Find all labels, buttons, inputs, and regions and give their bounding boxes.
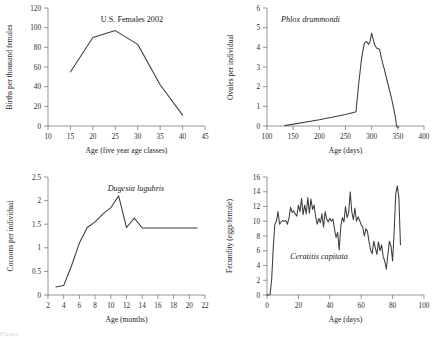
data-series-line (285, 33, 399, 127)
x-tick-label: 250 (340, 133, 351, 141)
data-series-line (56, 196, 197, 287)
y-tick-label: 0 (37, 123, 41, 131)
series-title: Ceratitis capitata (290, 252, 348, 261)
x-tick-label: 100 (419, 302, 430, 310)
x-tick-label: 30 (134, 133, 142, 141)
x-tick-label: 20 (186, 302, 194, 310)
y-tick-label: 4 (256, 44, 260, 52)
x-tick-label: 18 (170, 302, 178, 310)
x-tick-label: 0 (265, 302, 269, 310)
plot-frame-phlox (267, 8, 424, 126)
y-tick-label: 40 (34, 83, 42, 91)
y-tick-label: 4 (256, 262, 260, 270)
y-axis-title: Births per thousand females (5, 24, 14, 109)
x-ticks-phlox: 100 150 200 250 300 350 400 (262, 126, 430, 141)
x-ticks-dugesia: 2 4 6 8 10 12 14 16 18 20 22 (46, 295, 209, 310)
y-tick-label: 120 (30, 5, 41, 13)
y-tick-label: 60 (34, 64, 42, 72)
y-ticks-dugesia: 2.5 2 1.5 1 0.5 0 (32, 174, 48, 300)
y-ticks-us-females: 120 100 80 60 40 20 0 (30, 5, 48, 131)
y-tick-label: 0 (256, 292, 260, 300)
x-tick-label: 100 (262, 133, 273, 141)
y-tick-label: 12 (253, 203, 261, 211)
x-tick-label: 350 (392, 133, 403, 141)
figure-caption: Figure (0, 330, 438, 338)
x-ticks-ceratitis: 0 20 40 60 80 100 (265, 295, 430, 310)
x-tick-label: 35 (157, 133, 165, 141)
x-tick-label: 4 (62, 302, 66, 310)
y-tick-label: 0 (37, 292, 41, 300)
x-axis-title: Age (five year age classes) (86, 146, 168, 155)
plot-frame-us-females (48, 8, 205, 126)
x-tick-label: 12 (123, 302, 131, 310)
chart-ceratitis: 16 14 12 10 8 6 4 2 0 0 20 40 60 (219, 169, 438, 338)
y-ticks-ceratitis: 16 14 12 10 8 6 4 2 0 (253, 174, 267, 300)
x-tick-label: 400 (419, 133, 430, 141)
x-axis-title: Age (days) (329, 146, 363, 155)
x-tick-label: 80 (389, 302, 397, 310)
y-tick-label: 1 (256, 103, 260, 111)
x-tick-label: 10 (107, 302, 115, 310)
y-ticks-phlox: 6 5 4 3 2 1 0 (256, 5, 267, 131)
x-tick-label: 6 (78, 302, 82, 310)
y-tick-label: 0.5 (32, 268, 41, 276)
x-tick-label: 300 (366, 133, 377, 141)
y-tick-label: 80 (34, 44, 42, 52)
y-tick-label: 16 (253, 174, 261, 182)
chart-phlox: 6 5 4 3 2 1 0 100 150 200 250 300 (219, 0, 438, 169)
y-tick-label: 10 (253, 218, 261, 226)
panel-ceratitis: 16 14 12 10 8 6 4 2 0 0 20 40 60 (219, 169, 438, 338)
y-tick-label: 14 (253, 188, 261, 196)
x-axis-title: Age (months) (106, 315, 148, 324)
x-tick-label: 22 (201, 302, 209, 310)
series-title: Dugesia lugubris (107, 184, 165, 193)
y-axis-title: Cocoons per individual (6, 201, 15, 272)
y-axis-title: Fecundity (eggs/female) (225, 199, 234, 273)
y-tick-label: 5 (256, 24, 260, 32)
x-tick-label: 60 (358, 302, 366, 310)
y-tick-label: 1 (37, 244, 41, 252)
x-tick-label: 40 (326, 302, 334, 310)
chart-dugesia: 2.5 2 1.5 1 0.5 0 2 4 6 (0, 169, 219, 338)
chart-us-females: 120 100 80 60 40 20 0 10 15 20 25 (0, 0, 219, 169)
x-tick-label: 40 (179, 133, 187, 141)
plot-frame-dugesia (48, 177, 205, 295)
x-tick-label: 2 (46, 302, 50, 310)
x-ticks-us-females: 10 15 20 25 30 35 40 45 (44, 126, 209, 141)
panel-phlox: 6 5 4 3 2 1 0 100 150 200 250 300 (219, 0, 438, 169)
x-tick-label: 20 (295, 302, 303, 310)
x-tick-label: 14 (139, 302, 147, 310)
panel-dugesia: 2.5 2 1.5 1 0.5 0 2 4 6 (0, 169, 219, 338)
y-tick-label: 3 (256, 64, 260, 72)
y-tick-label: 2 (37, 197, 41, 205)
series-title: U.S. Females 2002 (101, 15, 163, 24)
y-tick-label: 2.5 (32, 174, 41, 182)
y-tick-label: 100 (30, 24, 41, 32)
panel-us-females: 120 100 80 60 40 20 0 10 15 20 25 (0, 0, 219, 169)
y-tick-label: 1.5 (32, 221, 41, 229)
y-tick-label: 0 (256, 123, 260, 131)
figure-container: 120 100 80 60 40 20 0 10 15 20 25 (0, 0, 438, 338)
x-tick-label: 16 (154, 302, 162, 310)
y-tick-label: 2 (256, 83, 260, 91)
x-tick-label: 15 (67, 133, 75, 141)
x-tick-label: 20 (89, 133, 97, 141)
x-tick-label: 10 (44, 133, 52, 141)
data-series-line (267, 186, 400, 295)
series-title: Phlox drummondi (280, 15, 341, 24)
x-tick-label: 25 (112, 133, 120, 141)
y-tick-label: 8 (256, 233, 260, 241)
x-tick-label: 45 (201, 133, 209, 141)
y-tick-label: 2 (256, 277, 260, 285)
data-series-line (70, 31, 182, 116)
x-tick-label: 200 (314, 133, 325, 141)
x-axis-title: Age (days) (329, 315, 363, 324)
y-tick-label: 6 (256, 247, 260, 255)
y-tick-label: 6 (256, 5, 260, 13)
y-tick-label: 20 (34, 103, 42, 111)
x-tick-label: 150 (288, 133, 299, 141)
y-axis-title: Ovules per individual (226, 34, 235, 100)
x-tick-label: 8 (93, 302, 97, 310)
